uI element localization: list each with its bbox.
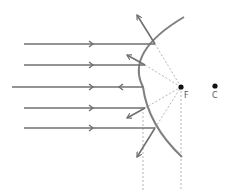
focus-point [178,84,183,89]
incident-arrowheads [89,41,123,131]
center-point [212,83,217,88]
incident-rays [12,44,155,128]
reflected-rays [127,15,155,157]
focus-label: F [184,91,189,100]
construction-lines [143,44,181,191]
center-label: C [212,91,218,100]
ray-diagram: F C [0,0,230,191]
convex-mirror [139,17,184,157]
